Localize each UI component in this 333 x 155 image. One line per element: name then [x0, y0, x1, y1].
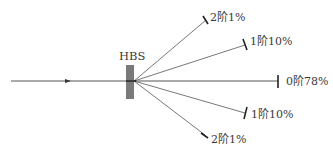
- beam-order-minus2: [134, 81, 205, 135]
- order-label-plus2: 2阶1%: [210, 12, 245, 23]
- detector-minus2: [201, 133, 208, 138]
- diffraction-diagram: HBS 2阶1% 1阶10% 0阶78% 1阶10% 2阶1%: [0, 0, 333, 155]
- order-label-plus1: 1阶10%: [250, 36, 292, 47]
- diagram-canvas: [0, 0, 333, 155]
- order-label-zero: 0阶78%: [286, 76, 328, 87]
- hbs-beamsplitter: [126, 65, 134, 99]
- order-label-minus2: 2阶1%: [211, 134, 246, 145]
- beam-direction-arrow-icon: [65, 79, 71, 83]
- beam-order-minus1: [134, 81, 245, 113]
- order-label-minus1: 1阶10%: [251, 109, 293, 120]
- detector-plus1: [243, 39, 247, 50]
- hbs-label: HBS: [119, 51, 145, 63]
- detector-plus2: [203, 16, 208, 24]
- beam-order-plus1: [134, 45, 245, 81]
